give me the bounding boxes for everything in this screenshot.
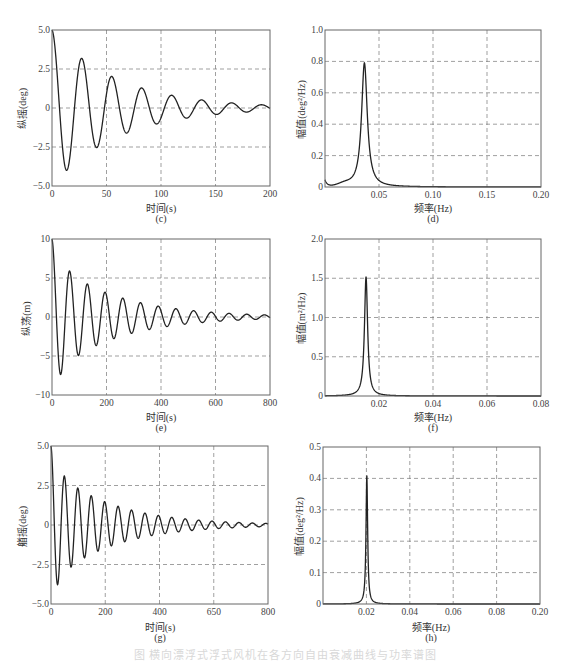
chart-h-ylabel: 幅值(deg²/Hz) xyxy=(291,482,306,572)
chart-h-svg: 0.020.040.060.080.2000.10.20.30.40.5 xyxy=(0,0,571,662)
plot-frame xyxy=(323,447,540,604)
y-tick-label: 0.1 xyxy=(309,568,321,578)
chart-panel-h: 0.020.040.060.080.2000.10.20.30.40.5 幅值(… xyxy=(0,0,571,662)
y-tick-label: 0.2 xyxy=(309,536,321,546)
x-tick-label: 0.06 xyxy=(445,607,462,617)
y-tick-label: 0.4 xyxy=(309,473,321,483)
y-tick-label: 0.3 xyxy=(309,505,321,515)
y-tick-label: 0.5 xyxy=(309,442,321,452)
figure-caption: 图 横向漂浮式浮式风机在各方向自由衰减曲线与功率谱图 xyxy=(0,646,571,662)
x-tick-label: 0.02 xyxy=(358,607,375,617)
x-tick-label: 0.20 xyxy=(532,607,549,617)
x-tick-label: 0.04 xyxy=(401,607,418,617)
chart-h-panel-label: (h) xyxy=(381,632,481,643)
x-tick-label: 0.08 xyxy=(488,607,505,617)
y-tick-label: 0 xyxy=(316,599,321,609)
data-series-line xyxy=(323,476,540,604)
